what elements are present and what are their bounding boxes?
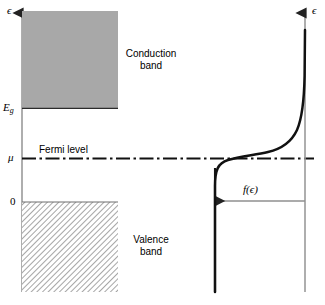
conduction-band-label-line1: Conduction bbox=[126, 48, 177, 59]
valence-band-label-line2: band bbox=[140, 246, 162, 257]
valence-band-label: Valenceband bbox=[120, 234, 182, 258]
conduction-band-label-line2: band bbox=[140, 60, 162, 71]
conduction-band-label: Conductionband bbox=[120, 48, 182, 72]
energy-gap-subscript: g bbox=[10, 106, 14, 115]
zero-energy-label: 0 bbox=[10, 195, 16, 208]
fermi-level-label: Fermi level bbox=[39, 144, 88, 156]
energy-gap-label: Eg bbox=[3, 101, 14, 115]
chemical-potential-label: μ bbox=[8, 151, 14, 164]
fermi-dirac-curve bbox=[215, 30, 305, 292]
left-axis-label: ϵ bbox=[7, 4, 11, 17]
band-diagram-figure: ϵ Eg μ 0 Conductionband Valenceband Ferm… bbox=[0, 0, 325, 305]
f-epsilon-label: f(ϵ) bbox=[243, 183, 258, 196]
valence-band-region bbox=[22, 202, 118, 292]
energy-gap-symbol: E bbox=[3, 101, 10, 113]
conduction-band-region bbox=[22, 11, 118, 108]
right-axis-label: ϵ bbox=[312, 4, 316, 17]
valence-band-label-line1: Valence bbox=[133, 234, 168, 245]
